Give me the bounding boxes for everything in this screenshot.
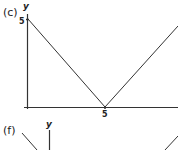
abs-value-curve-c <box>28 19 178 107</box>
panel-f: (f) y <box>3 119 178 150</box>
y-axis-label-c: y <box>23 1 30 11</box>
y-axis-label-f: y <box>46 119 53 129</box>
panel-c: (c) y 5 5 <box>3 1 178 119</box>
curve-left-f <box>22 133 37 150</box>
x-tick-5-c: 5 <box>102 110 108 119</box>
panel-label-f: (f) <box>3 124 15 137</box>
y-tick-5-c: 5 <box>19 17 25 26</box>
figure-canvas: (c) y 5 5 (f) y <box>0 0 178 150</box>
curve-right-f <box>165 136 178 150</box>
panel-label-c: (c) <box>3 6 18 19</box>
